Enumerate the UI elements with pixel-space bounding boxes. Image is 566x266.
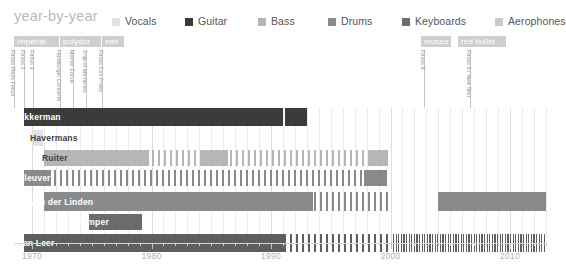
timeline-segment (364, 170, 387, 186)
album-title: Focus Plays Focus (10, 50, 16, 96)
member-name-akkerman: Akkerman (14, 108, 65, 126)
x-axis: 19701980199020002010 (0, 243, 557, 266)
axis-tick-minor (140, 243, 141, 246)
axis-tick-minor (546, 243, 547, 246)
legend-label: Bass (271, 15, 295, 27)
axis-tick-minor (20, 243, 21, 246)
legend-label: Aerophones (508, 15, 566, 27)
axis-tick-minor (175, 243, 176, 246)
legend-label: Guitar (198, 15, 227, 27)
axis-tick-minor (116, 243, 117, 246)
timeline-segment (54, 170, 391, 186)
legend-swatch-icon (328, 18, 336, 26)
timeline-row: Ruiter (0, 150, 557, 166)
axis-tick-minor (426, 243, 427, 246)
timeline-segment (68, 192, 391, 211)
axis-tick-minor (259, 243, 260, 246)
axis-tick-minor (438, 243, 439, 246)
axis-line (14, 243, 547, 244)
axis-tick-minor (247, 243, 248, 246)
axis-tick-minor (235, 243, 236, 246)
axis-tick-minor (68, 243, 69, 246)
axis-tick-minor (295, 243, 296, 246)
legend-label: Drums (341, 15, 372, 27)
timeline-segment (277, 192, 313, 211)
axis-tick-minor (367, 243, 368, 246)
member-name-kemper: Kemper (72, 214, 113, 230)
axis-tick-minor (163, 243, 164, 246)
axis-tick-minor (211, 243, 212, 246)
legend-swatch-icon (258, 18, 266, 26)
axis-tick-minor (450, 243, 451, 246)
axis-tick-minor (199, 243, 200, 246)
member-name-cleuver: Cleuver (14, 170, 55, 186)
album-title: Focus 9 / New Skin (466, 50, 472, 97)
axis-tick-major (510, 243, 511, 249)
record-label-emi: emi (102, 36, 124, 47)
axis-tick-minor (307, 243, 308, 246)
member-name-havermans: Havermans (26, 130, 82, 146)
album-title: Focus 2 (20, 50, 26, 70)
timeline-plot: AkkermanHavermansRuiterCleuvervan der Li… (0, 108, 557, 243)
album-title: Focus Con Proby (98, 50, 104, 92)
axis-tick-label: 2010 (500, 251, 520, 261)
axis-tick-minor (128, 243, 129, 246)
timeline-segment (369, 150, 388, 166)
timeline-row: Kemper (0, 214, 557, 230)
timeline-row: Cleuver (0, 170, 557, 186)
axis-tick-minor (486, 243, 487, 246)
record-label-polydor: polydor (60, 36, 101, 47)
album-title: Focus 3 (29, 50, 35, 70)
record-label-band: imperialpolydoremimuseored bullet (0, 36, 557, 47)
record-label-imperial: imperial (14, 36, 59, 47)
record-label-red-bullet: red bullet (458, 36, 506, 47)
album-markers: Focus Plays FocusFocus 2Focus 3Hamburger… (0, 50, 557, 108)
legend-item-guitar: Guitar (185, 11, 227, 29)
axis-tick-label: 1980 (141, 251, 161, 261)
axis-tick-minor (56, 243, 57, 246)
axis-tick-minor (104, 243, 105, 246)
axis-tick-minor (187, 243, 188, 246)
legend-swatch-icon (495, 18, 503, 26)
legend-label: Vocals (125, 15, 157, 27)
axis-tick-label: 2000 (380, 251, 400, 261)
timeline-segment (152, 150, 385, 166)
timeline-row: Akkerman (0, 108, 557, 126)
legend-item-bass: Bass (258, 11, 295, 29)
timeline-segment (202, 150, 228, 166)
record-label-museo: museo (421, 36, 451, 47)
chart-header: year-by-year VocalsGuitarBassDrumsKeyboa… (0, 0, 557, 30)
axis-tick-major (32, 243, 33, 249)
axis-tick-minor (379, 243, 380, 246)
album-title: Hamburger Concerto (56, 50, 62, 101)
member-name-ruiter: Ruiter (38, 150, 72, 166)
album-title: Ship of Memories (82, 50, 88, 93)
timeline-row: van der Linden (0, 192, 557, 211)
legend-item-aerophones: Aerophones (495, 11, 566, 29)
axis-tick-major (391, 243, 392, 249)
legend-swatch-icon (185, 18, 193, 26)
axis-tick-label: 1990 (261, 251, 281, 261)
axis-tick-label: 1970 (22, 251, 42, 261)
axis-tick-minor (283, 243, 284, 246)
axis-tick-minor (355, 243, 356, 246)
axis-tick-minor (474, 243, 475, 246)
timeline-segment (285, 108, 307, 126)
member-name-van-der-linden: van der Linden (26, 192, 97, 211)
axis-tick-minor (414, 243, 415, 246)
axis-tick-minor (44, 243, 45, 246)
legend-item-keyboards: Keyboards (402, 11, 466, 29)
axis-tick-minor (498, 243, 499, 246)
legend-swatch-icon (112, 18, 120, 26)
axis-tick-minor (462, 243, 463, 246)
axis-tick-minor (343, 243, 344, 246)
legend-swatch-icon (402, 18, 410, 26)
legend-item-vocals: Vocals (112, 11, 157, 29)
axis-tick-minor (223, 243, 224, 246)
axis-tick-minor (534, 243, 535, 246)
timeline-segment (438, 192, 546, 211)
album-title: Mother Focus (69, 50, 75, 84)
axis-tick-minor (331, 243, 332, 246)
album-title: Focus 8 (420, 50, 426, 70)
axis-tick-minor (522, 243, 523, 246)
